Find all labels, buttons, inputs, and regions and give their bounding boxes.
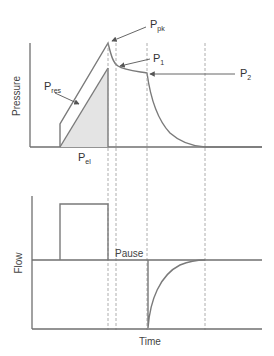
p2-label: P2	[240, 67, 251, 81]
flow-chart: Pause Flow Time	[13, 196, 262, 347]
pause-label: Pause	[115, 248, 144, 259]
flow-axis-label: Flow	[13, 252, 24, 274]
p1-label: P1	[153, 52, 164, 66]
pel-label: Pel	[78, 151, 91, 165]
inspiratory-flow-pulse	[60, 204, 108, 260]
expiratory-flow-curve	[148, 260, 205, 328]
time-axis-label: Time	[139, 336, 161, 347]
ppk-label: Ppk	[150, 18, 165, 33]
pressure-axis-label: Pressure	[11, 76, 22, 116]
p1-arrow	[120, 59, 150, 66]
ppk-arrow	[112, 27, 146, 41]
pressure-chart: Ppk P1 P2 Pres Pel Pressure	[11, 18, 262, 330]
pres-label: Pres	[44, 80, 62, 94]
ventilator-diagram: Ppk P1 P2 Pres Pel Pressure Pause Flow T…	[0, 0, 274, 356]
